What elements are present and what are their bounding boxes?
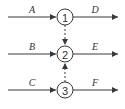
output-label-f: F	[91, 77, 99, 88]
input-label-a: A	[28, 4, 36, 15]
node-2-label: 2	[62, 49, 68, 61]
input-label-b: B	[29, 41, 35, 52]
output-label-e: E	[91, 41, 98, 52]
node-3-label: 3	[62, 85, 68, 97]
output-label-d: D	[90, 4, 99, 15]
row-2: B 2 E	[8, 41, 118, 62]
node-1-label: 1	[62, 12, 68, 24]
input-label-c: C	[29, 77, 36, 88]
row-3: C 3 F	[8, 77, 118, 98]
row-1: A 1 D	[8, 4, 118, 25]
flow-diagram: A 1 D B 2 E C 3 F	[0, 0, 125, 109]
